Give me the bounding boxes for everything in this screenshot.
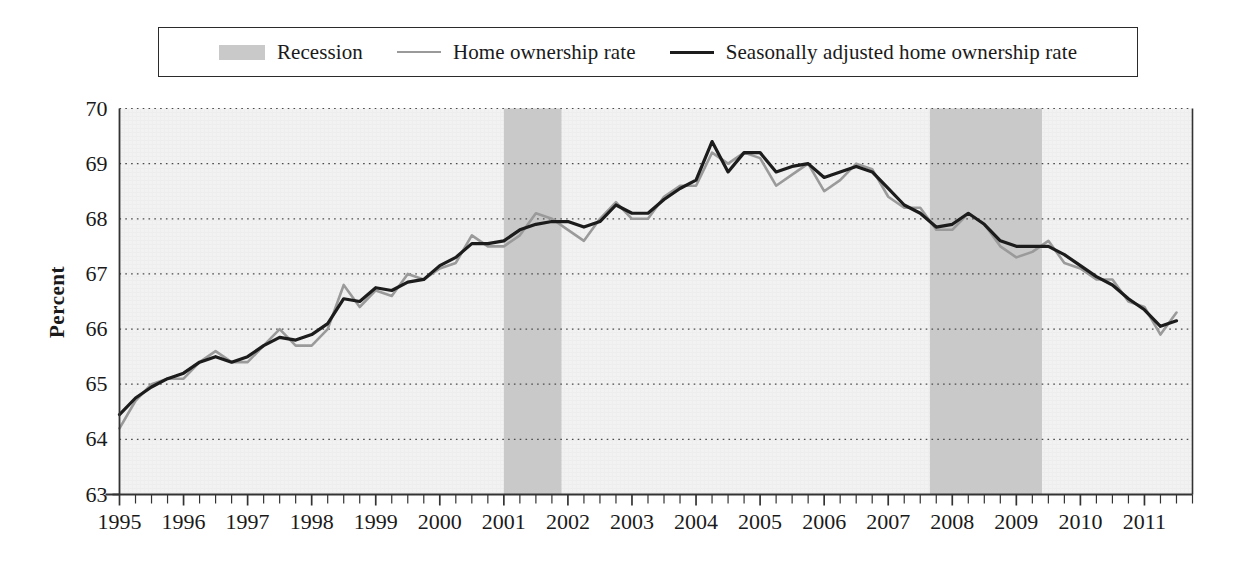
home-ownership-rate-chart: Recession Home ownership rate Seasonally… (0, 0, 1248, 563)
x-tick-label-2006: 2006 (789, 511, 859, 533)
x-tick-label-2004: 2004 (661, 511, 731, 533)
x-tick-label-2007: 2007 (853, 511, 923, 533)
plot-area: 7069686766656463 19951996199719981999200… (0, 0, 1248, 563)
x-tick-label-2001: 2001 (469, 511, 539, 533)
x-tick-labels: 1995199619971998199920002001200220032004… (0, 0, 1248, 563)
x-tick-label-2008: 2008 (917, 511, 987, 533)
x-tick-label-2010: 2010 (1045, 511, 1115, 533)
x-tick-label-2005: 2005 (725, 511, 795, 533)
x-tick-label-2000: 2000 (405, 511, 475, 533)
x-tick-label-1997: 1997 (213, 511, 283, 533)
x-tick-label-2002: 2002 (533, 511, 603, 533)
x-tick-label-2011: 2011 (1109, 511, 1179, 533)
x-tick-label-2003: 2003 (597, 511, 667, 533)
x-tick-label-1998: 1998 (277, 511, 347, 533)
x-tick-label-1996: 1996 (149, 511, 219, 533)
x-tick-label-2009: 2009 (981, 511, 1051, 533)
x-tick-label-1995: 1995 (85, 511, 155, 533)
x-tick-label-1999: 1999 (341, 511, 411, 533)
